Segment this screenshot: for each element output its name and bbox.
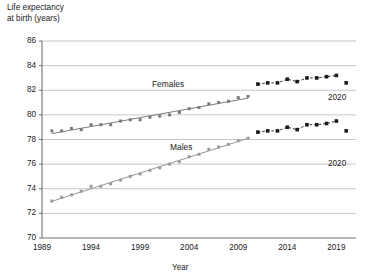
data-point-males [129,175,132,178]
y-tick-label: 74 [14,184,36,193]
data-point-males [80,190,83,193]
data-point-males-recent [256,130,260,134]
data-point-males [148,169,151,172]
data-point-males [139,172,142,175]
x-tick-label: 2014 [270,243,304,252]
y-tick-label: 76 [14,159,36,168]
data-point-females-recent [305,76,309,80]
y-tick-label: 78 [14,135,36,144]
x-tick-label: 2009 [221,243,255,252]
y-tick-label: 80 [14,110,36,119]
data-point-females [119,120,122,123]
data-point-males [99,185,102,188]
data-point-males [217,145,220,148]
data-point-females [207,102,210,105]
data-point-males-recent [305,123,309,127]
data-point-males [158,166,161,169]
data-point-females [148,116,151,119]
data-point-males [178,160,181,163]
y-tick-label: 82 [14,85,36,94]
y-tick-label: 84 [14,61,36,70]
data-point-females [50,129,53,132]
data-point-males-recent [276,129,280,133]
data-point-females [139,118,142,121]
data-point-females [60,129,63,132]
x-tick-label: 1994 [74,243,108,252]
data-point-males-recent [315,123,319,127]
data-point-females [90,123,93,126]
data-point-females [80,128,83,131]
data-point-males [168,163,171,166]
data-point-females-recent [256,82,260,86]
data-point-males [237,139,240,142]
data-point-males [247,137,250,140]
data-point-males [109,182,112,185]
data-point-females-recent [286,77,290,81]
data-point-females-recent [325,75,329,79]
data-point-males-recent [325,122,329,126]
x-tick-label: 2019 [319,243,353,252]
data-point-females-recent [295,80,299,84]
data-point-males [60,196,63,199]
data-point-males-recent [295,128,299,132]
x-tick-label: 1989 [25,243,59,252]
y-tick-label: 72 [14,208,36,217]
data-point-females-recent [315,76,319,80]
y-tick-label: 86 [14,36,36,45]
annotation-females-2020: 2020 [328,93,346,102]
data-point-females [188,107,191,110]
data-point-females [158,115,161,118]
x-tick-label: 1999 [123,243,157,252]
data-point-females [178,111,181,114]
data-point-females [247,95,250,98]
data-point-females [109,123,112,126]
data-point-males [227,143,230,146]
data-point-males-recent [266,129,270,133]
data-point-males [90,185,93,188]
data-point-males [188,155,191,158]
data-point-females-recent [344,81,348,85]
y-tick-label: 70 [14,233,36,242]
data-point-females [227,100,230,103]
data-point-females-recent [276,81,280,85]
series-label-males: Males [170,142,192,152]
data-point-females-recent [266,81,270,85]
data-point-females [198,106,201,109]
data-point-males-recent [335,119,339,123]
data-point-males [70,193,73,196]
data-point-females [237,96,240,99]
data-point-males-recent [344,129,348,133]
annotation-males-2020: 2020 [328,159,346,168]
series-label-females: Females [152,79,184,89]
data-point-females [217,101,220,104]
data-point-males [50,200,53,203]
data-point-females [129,118,132,121]
data-point-females [99,123,102,126]
plot-area [0,0,368,279]
data-point-females [70,127,73,130]
x-tick-label: 2004 [172,243,206,252]
data-point-males [119,179,122,182]
data-point-males [198,153,201,156]
data-point-males [207,148,210,151]
data-point-females [168,113,171,116]
data-point-males-recent [286,125,290,129]
chart-container: Life expectancy at birth (years) Year 86… [0,0,368,279]
data-point-females-recent [335,74,339,78]
